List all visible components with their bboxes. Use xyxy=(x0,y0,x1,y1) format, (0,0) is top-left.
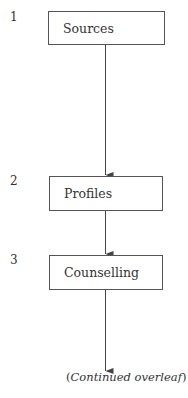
step-box-profiles: Profiles xyxy=(49,176,163,211)
continued-text: Continued overleaf xyxy=(71,370,182,384)
step-number-3: 3 xyxy=(10,253,18,267)
step-box-sources: Sources xyxy=(48,11,165,45)
step-label: Counselling xyxy=(50,265,139,280)
step-number-1: 1 xyxy=(10,10,18,24)
step-box-counselling: Counselling xyxy=(49,255,163,290)
step-number-2: 2 xyxy=(10,174,18,188)
step-label: Profiles xyxy=(50,186,112,201)
step-label: Sources xyxy=(49,21,114,36)
continued-note: (Continued overleaf) xyxy=(66,370,186,384)
